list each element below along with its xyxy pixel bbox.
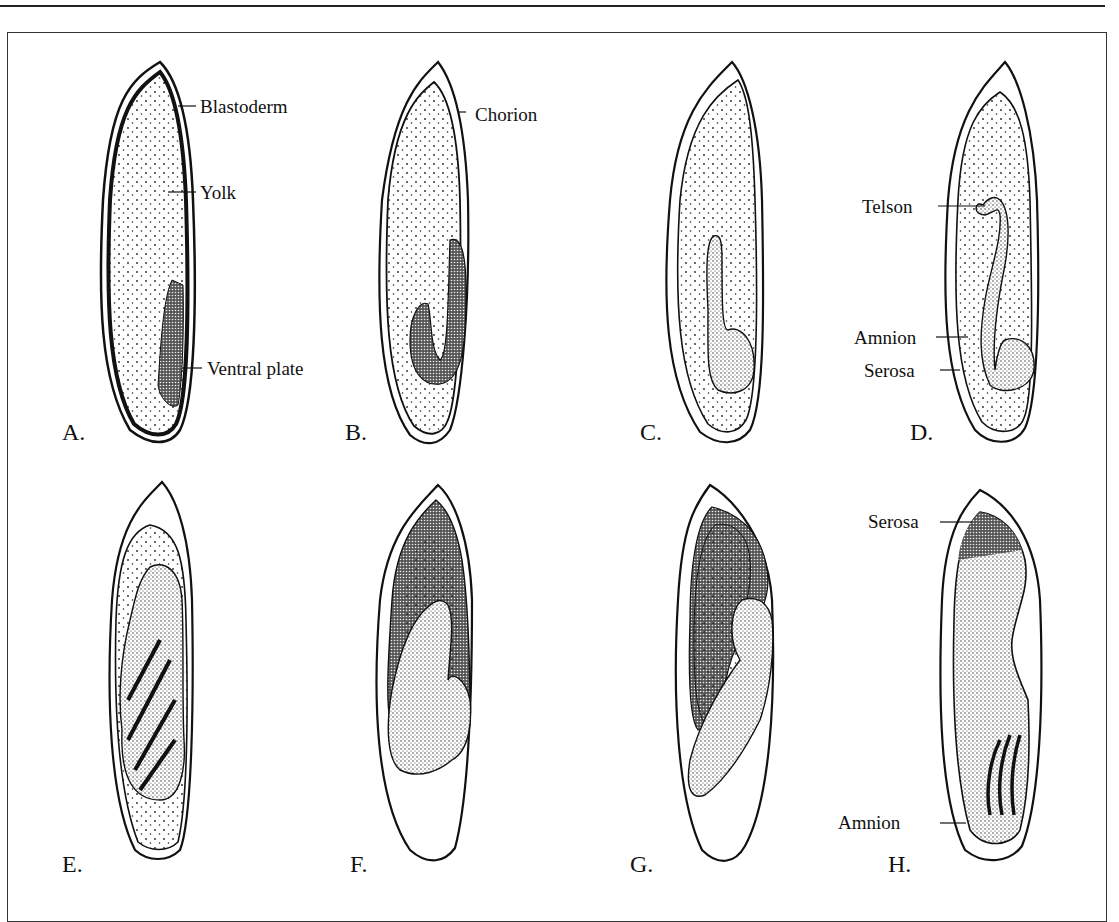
label-telson: Telson [862,197,912,216]
panel-letter-e: E. [62,852,83,876]
label-ventral-plate: Ventral plate [207,359,304,378]
panel-c-egg [666,62,763,442]
panel-f-egg [376,485,472,860]
panel-letter-f: F. [350,852,367,876]
panel-h-egg [940,490,1041,860]
panel-g-egg [676,485,773,861]
label-chorion: Chorion [475,105,537,124]
label-serosa-h: Serosa [868,512,919,531]
label-amnion-d: Amnion [854,328,916,347]
panel-a-egg [101,62,202,442]
panel-letter-a: A. [62,420,85,444]
label-blastoderm: Blastoderm [200,97,288,116]
panel-letter-c: C. [640,420,662,444]
panel-e-egg [110,482,193,859]
label-serosa-d: Serosa [864,361,915,380]
label-amnion-h: Amnion [838,813,900,832]
label-yolk: Yolk [200,183,236,202]
panel-letter-g: G. [630,852,653,876]
panel-letter-h: H. [888,852,911,876]
panel-d-egg [936,62,1038,442]
panel-b-egg [379,62,468,443]
panel-letter-d: D. [910,420,933,444]
panel-letter-b: B. [345,420,367,444]
